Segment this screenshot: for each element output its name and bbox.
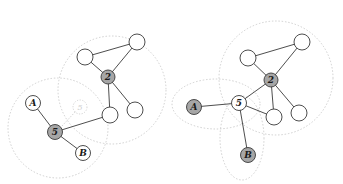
- node: [127, 102, 143, 118]
- graph-diagram: 5 2 5 A B: [0, 0, 343, 184]
- node-b-label: B: [243, 150, 252, 160]
- ghost-node-5-label: 5: [77, 103, 82, 112]
- node-b-label: B: [78, 148, 87, 158]
- node: [102, 107, 118, 123]
- node-2-label: 2: [267, 75, 274, 85]
- node: [240, 50, 256, 66]
- left-graph: 5 2 5 A B: [8, 34, 166, 178]
- ghost-edge: [62, 111, 76, 126]
- node: [291, 105, 307, 121]
- node-a-label: A: [29, 98, 37, 108]
- node-5-label: 5: [52, 127, 58, 137]
- node: [266, 109, 282, 125]
- edge: [55, 115, 110, 132]
- node-2-label: 2: [104, 72, 111, 82]
- node: [294, 34, 310, 50]
- node: [77, 49, 93, 65]
- node-5-label: 5: [236, 98, 242, 108]
- right-graph: 2 5 A B: [172, 21, 333, 180]
- node-a-label: A: [190, 102, 198, 112]
- neighborhood-halo-node-2: [58, 36, 166, 144]
- node: [129, 34, 145, 50]
